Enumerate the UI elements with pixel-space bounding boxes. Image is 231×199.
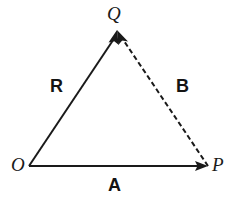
vector-label-a: A (108, 176, 121, 194)
vector-label-b: B (176, 77, 189, 95)
vector-r-group (29, 30, 119, 166)
vector-b-group (117, 30, 208, 166)
vector-b-shaft (122, 38, 208, 166)
vector-r-arrowhead (109, 30, 119, 45)
vector-triangle-diagram: Q O P R B A (0, 0, 231, 199)
point-label-o: O (11, 155, 25, 174)
point-label-p: P (212, 155, 224, 174)
point-label-q: Q (107, 4, 121, 23)
vector-r-shaft (29, 38, 115, 166)
vector-label-r: R (50, 77, 63, 95)
vector-diagram-canvas (0, 0, 231, 199)
vector-a-group (29, 161, 208, 171)
